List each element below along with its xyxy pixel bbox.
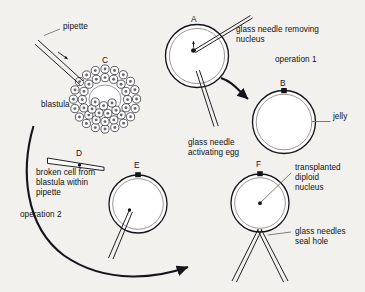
label-broken-cell: broken cell from blastula within pipette <box>36 168 95 199</box>
stage-letter-a: A <box>191 14 197 24</box>
stage-letter-c: C <box>102 55 108 65</box>
label-pipette: pipette <box>63 22 88 32</box>
stage-d-broken-cell <box>78 163 81 166</box>
stage-e-nucleus <box>128 208 131 211</box>
label-needle-activating-egg: glass needle activating egg <box>188 138 239 158</box>
stage-f-marker <box>257 171 263 176</box>
label-jelly: jelly <box>333 112 347 122</box>
stage-letter-f: F <box>256 159 261 169</box>
label-transplanted-nucleus: transplanted diploid nucleus <box>295 163 341 194</box>
label-needle-removing-nucleus: glass needle removing nucleus <box>236 25 319 45</box>
stage-letter-d: D <box>76 148 82 158</box>
stage-e-marker <box>135 172 141 177</box>
label-operation-1: operation 1 <box>275 55 317 65</box>
stage-letter-b: B <box>280 78 286 88</box>
stage-b-marker <box>281 88 287 93</box>
label-operation-2: operation 2 <box>20 210 62 220</box>
label-seal-hole: glass needles seal hole <box>295 227 346 247</box>
stage-letter-e: E <box>134 160 140 170</box>
label-blastula: blastula <box>41 100 70 110</box>
